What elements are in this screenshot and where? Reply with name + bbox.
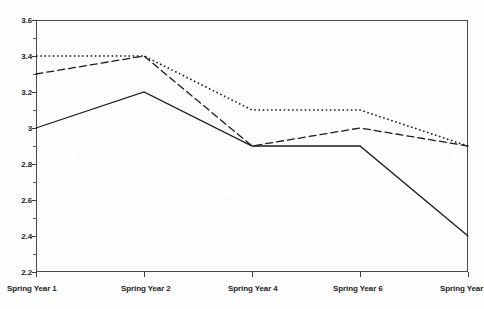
series-dotted xyxy=(36,56,468,146)
chart-plot-area xyxy=(0,0,484,309)
x-tick-marks xyxy=(37,272,469,277)
data-series-group xyxy=(36,56,468,236)
y-minor-tick-marks xyxy=(33,39,36,255)
series-dashed xyxy=(36,56,468,146)
chart-screenshot: 3.6 3.4 3.2 3 2.8 2.6 2.4 2.2 Spring Yea… xyxy=(0,0,484,309)
series-solid xyxy=(36,92,468,236)
